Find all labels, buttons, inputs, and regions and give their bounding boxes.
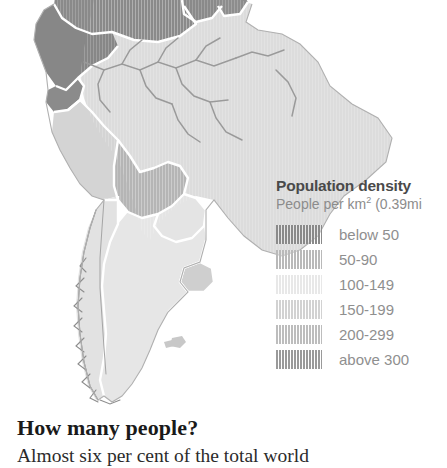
article-heading: How many people? <box>17 415 447 441</box>
legend-item: 200-299 <box>276 322 447 347</box>
legend-item-list: below 50 50-90 100-149 150-199 200-299 a… <box>276 222 447 372</box>
article-section: How many people? Almost six per cent of … <box>17 415 447 468</box>
legend-swatch-100-149 <box>276 275 322 294</box>
legend-label-150-199: 150-199 <box>339 300 394 319</box>
article-body-text: Almost six per cent of the total world <box>17 444 447 468</box>
legend-item: 50-90 <box>276 247 447 272</box>
legend-item: below 50 <box>276 222 447 247</box>
legend-swatch-above-300 <box>276 350 322 369</box>
map-legend: Population density People per km2 (0.39m… <box>276 176 447 372</box>
page-root: Population density People per km2 (0.39m… <box>0 0 447 468</box>
legend-label-below-50: below 50 <box>339 225 399 244</box>
legend-subtitle: People per km2 (0.39mi <box>276 195 447 213</box>
legend-item: 150-199 <box>276 297 447 322</box>
legend-subtitle-suffix: (0.39mi <box>371 196 422 212</box>
legend-swatch-50-90 <box>276 250 322 269</box>
legend-item: above 300 <box>276 347 447 372</box>
legend-swatch-150-199 <box>276 300 322 319</box>
legend-subtitle-prefix: People per km <box>276 196 366 212</box>
legend-title: Population density <box>276 176 447 195</box>
legend-label-200-299: 200-299 <box>339 325 394 344</box>
legend-swatch-200-299 <box>276 325 322 344</box>
legend-label-above-300: above 300 <box>339 350 409 369</box>
legend-item: 100-149 <box>276 272 447 297</box>
legend-swatch-below-50 <box>276 225 322 244</box>
legend-label-100-149: 100-149 <box>339 275 394 294</box>
legend-label-50-90: 50-90 <box>339 250 377 269</box>
